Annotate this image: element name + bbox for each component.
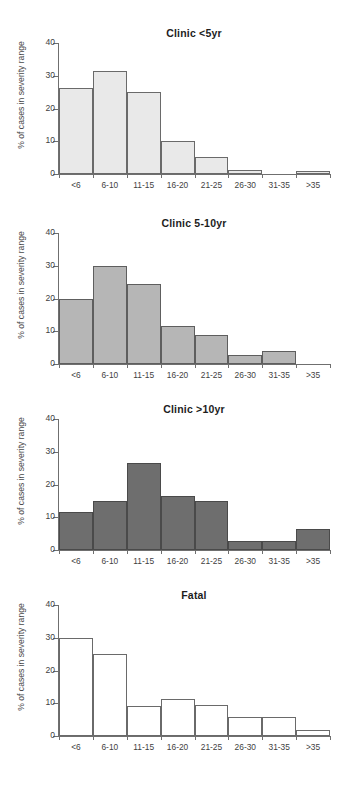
- x-tick-label: 26-30: [235, 742, 256, 752]
- x-tick-label: >35: [306, 180, 320, 190]
- bar: [93, 266, 127, 364]
- x-tick-label: >35: [306, 742, 320, 752]
- x-tick-label: 16-20: [167, 180, 188, 190]
- x-tick-mark: [93, 736, 94, 740]
- chart-panel-clinic-5to10yr: Clinic 5-10yr % of cases in severity ran…: [0, 212, 342, 402]
- x-tick-mark: [93, 364, 94, 368]
- x-tick-mark: [195, 736, 196, 740]
- x-tick-label: 11-15: [133, 742, 154, 752]
- chart-panel-clinic-lt5yr: Clinic <5yr % of cases in severity range…: [0, 22, 342, 212]
- x-tick-label: 16-20: [167, 742, 188, 752]
- x-tick-label: 11-15: [133, 180, 154, 190]
- x-tick-mark: [195, 174, 196, 178]
- chart-title: Clinic >10yr: [58, 403, 330, 415]
- bar: [59, 512, 93, 550]
- x-tick-label: 21-25: [201, 180, 222, 190]
- x-tick-mark: [161, 364, 162, 368]
- x-tick-mark: [262, 736, 263, 740]
- x-tick-label: <6: [71, 370, 81, 380]
- x-tick-mark: [330, 736, 331, 740]
- y-tick-label: 0: [50, 730, 55, 740]
- plot-area: 010203040<66-1011-1516-2021-2526-3031-35…: [58, 419, 330, 550]
- bar: [262, 541, 296, 550]
- y-tick-label: 20: [45, 665, 55, 675]
- x-tick-label: >35: [306, 556, 320, 566]
- x-tick-label: 31-35: [268, 180, 289, 190]
- x-tick-mark: [59, 550, 60, 554]
- x-tick-label: 11-15: [133, 556, 154, 566]
- x-tick-mark: [262, 364, 263, 368]
- chart-panel-fatal: Fatal % of cases in severity range 01020…: [0, 584, 342, 784]
- y-tick-label: 10: [45, 135, 55, 145]
- bar: [195, 705, 229, 736]
- x-tick-label: 31-35: [268, 556, 289, 566]
- bar: [262, 717, 296, 736]
- y-tick-label: 40: [45, 37, 55, 47]
- x-tick-mark: [296, 736, 297, 740]
- x-tick-label: 26-30: [235, 180, 256, 190]
- y-tick-label: 20: [45, 103, 55, 113]
- bar: [228, 355, 262, 364]
- x-tick-mark: [296, 550, 297, 554]
- y-tick-label: 20: [45, 293, 55, 303]
- chart-title: Clinic 5-10yr: [58, 217, 330, 229]
- x-tick-mark: [228, 736, 229, 740]
- x-tick-mark: [59, 364, 60, 368]
- bar: [127, 463, 161, 550]
- x-tick-label: 6-10: [101, 742, 118, 752]
- x-tick-mark: [161, 736, 162, 740]
- bar: [127, 92, 161, 174]
- y-tick-label: 0: [50, 358, 55, 368]
- x-tick-label: <6: [71, 556, 81, 566]
- x-tick-label: 21-25: [201, 370, 222, 380]
- x-tick-mark: [127, 736, 128, 740]
- y-tick-label: 0: [50, 544, 55, 554]
- x-tick-label: 16-20: [167, 370, 188, 380]
- chart-panel-clinic-gt10yr: Clinic >10yr % of cases in severity rang…: [0, 398, 342, 588]
- x-tick-mark: [330, 550, 331, 554]
- y-tick-label: 10: [45, 697, 55, 707]
- y-tick-label: 40: [45, 413, 55, 423]
- bar: [93, 654, 127, 736]
- x-tick-mark: [330, 364, 331, 368]
- bar: [195, 335, 229, 364]
- x-tick-mark: [195, 364, 196, 368]
- x-tick-mark: [262, 174, 263, 178]
- y-tick-label: 30: [45, 446, 55, 456]
- bar: [296, 730, 330, 736]
- x-tick-mark: [296, 174, 297, 178]
- bar: [262, 351, 296, 364]
- x-tick-mark: [93, 174, 94, 178]
- bar: [195, 501, 229, 550]
- y-axis-label: % of cases in severity range: [16, 30, 26, 160]
- bar-group: [59, 419, 330, 550]
- bar: [228, 170, 262, 174]
- bar: [161, 326, 195, 364]
- bar: [228, 717, 262, 736]
- x-tick-mark: [228, 174, 229, 178]
- bar: [59, 638, 93, 736]
- x-tick-label: 11-15: [133, 370, 154, 380]
- bar: [161, 496, 195, 550]
- x-tick-label: <6: [71, 742, 81, 752]
- x-tick-mark: [127, 550, 128, 554]
- bar: [161, 699, 195, 736]
- y-tick-label: 10: [45, 325, 55, 335]
- x-tick-mark: [228, 550, 229, 554]
- chart-title: Fatal: [58, 589, 330, 601]
- figure-panel-stack: Clinic <5yr % of cases in severity range…: [0, 0, 342, 794]
- bar: [93, 501, 127, 550]
- x-tick-mark: [330, 174, 331, 178]
- bar: [296, 529, 330, 550]
- x-tick-mark: [127, 174, 128, 178]
- x-tick-label: >35: [306, 370, 320, 380]
- bar-group: [59, 605, 330, 736]
- x-tick-label: 6-10: [101, 180, 118, 190]
- bar: [228, 541, 262, 550]
- x-tick-label: 31-35: [268, 370, 289, 380]
- y-axis-label: % of cases in severity range: [16, 220, 26, 350]
- x-tick-mark: [59, 174, 60, 178]
- y-tick-label: 20: [45, 479, 55, 489]
- x-tick-mark: [161, 550, 162, 554]
- x-tick-label: 31-35: [268, 742, 289, 752]
